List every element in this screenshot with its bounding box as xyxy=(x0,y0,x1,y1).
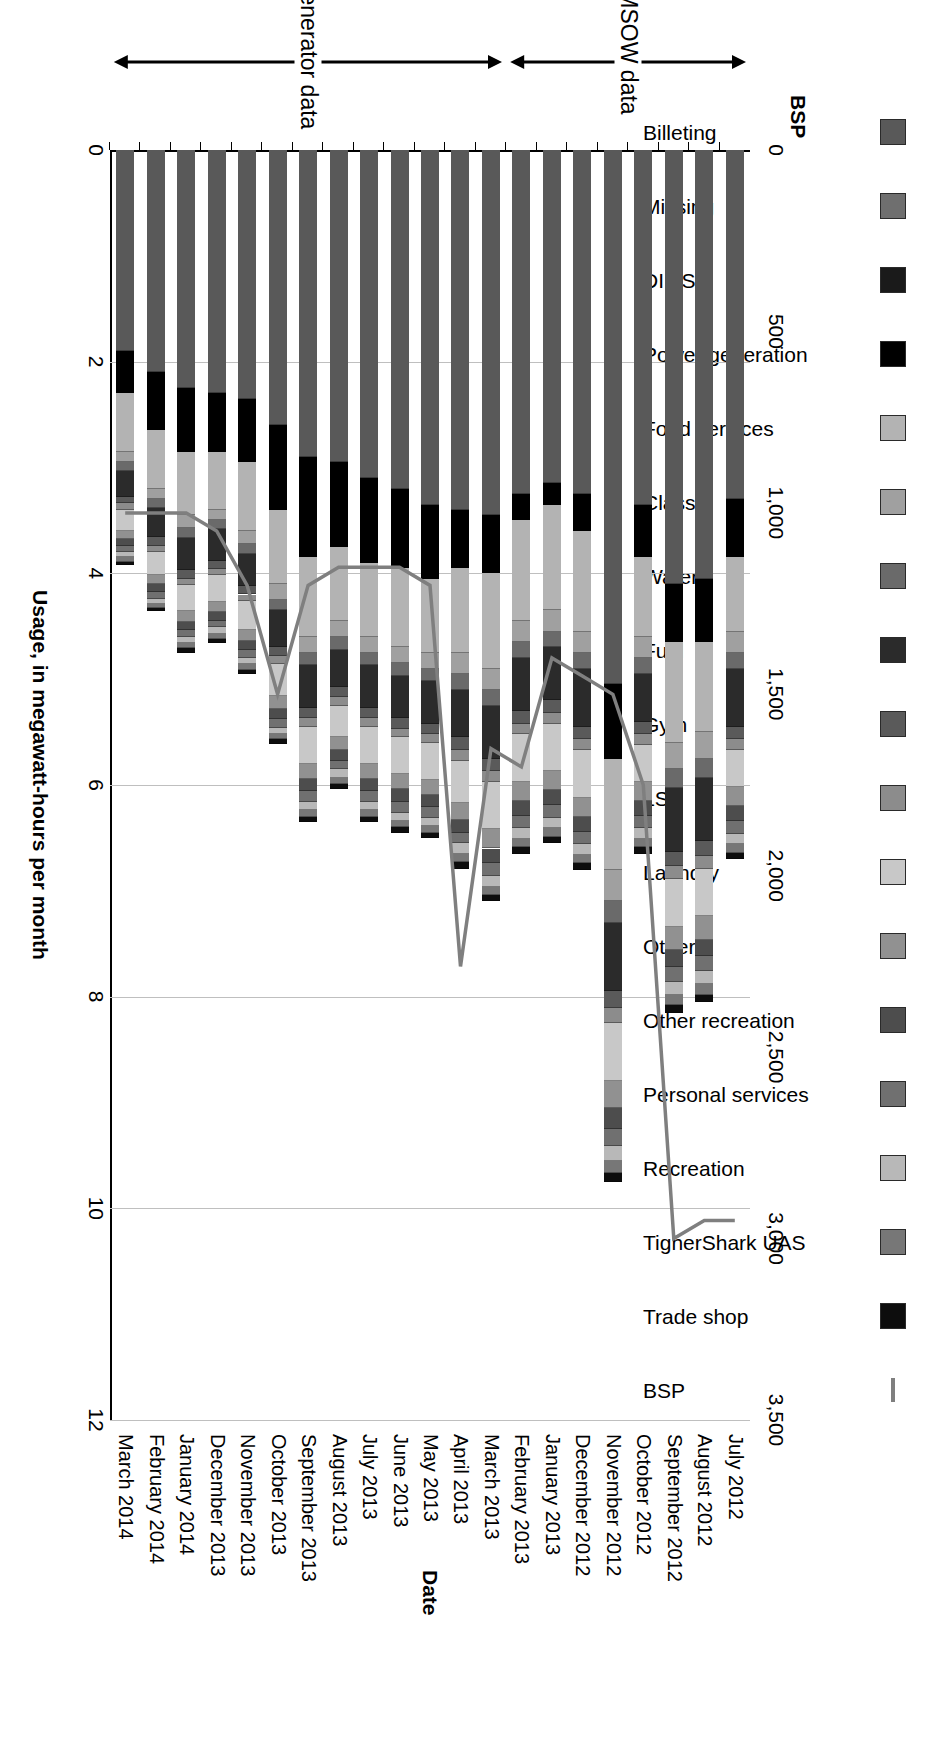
legend-swatch-icon xyxy=(880,1081,906,1107)
x-axis-tick-label: August 2013 xyxy=(328,1434,351,1546)
axis-tick-mark xyxy=(322,142,323,150)
x-axis-tick-label: October 2012 xyxy=(632,1434,655,1555)
x-axis-tick-label: January 2014 xyxy=(175,1434,198,1555)
legend-swatch-icon xyxy=(880,267,906,293)
gridline xyxy=(110,1420,750,1421)
axis-tick-mark xyxy=(536,142,537,150)
axis-tick-mark xyxy=(627,142,628,150)
x-axis-tick-label: February 2013 xyxy=(510,1434,533,1564)
axis-tick-mark xyxy=(292,142,293,150)
x-axis-tick-label: May 2013 xyxy=(419,1434,442,1522)
y-axis-tick-label: 6 xyxy=(84,745,108,825)
legend-swatch-icon xyxy=(880,1007,906,1033)
secondary-axis-title: BSP xyxy=(786,95,810,138)
legend-swatch-icon xyxy=(880,489,906,515)
axis-tick-mark xyxy=(383,142,384,150)
legend-swatch-icon xyxy=(880,563,906,589)
legend-item-label: Billeting xyxy=(643,122,873,143)
x-axis-title: Date xyxy=(418,1570,442,1616)
legend-line-icon xyxy=(880,1377,906,1403)
legend-swatch-icon xyxy=(880,193,906,219)
x-axis-tick-label: February 2014 xyxy=(145,1434,168,1564)
x-axis-tick-label: March 2013 xyxy=(480,1434,503,1540)
x-axis-tick-label: April 2013 xyxy=(449,1434,472,1524)
axis-tick-mark xyxy=(139,142,140,150)
axis-tick-mark xyxy=(597,142,598,150)
rotated-figure-wrapper: BilletingMissingDI LSAPower generationFo… xyxy=(0,0,928,1752)
x-axis-tick-label: September 2013 xyxy=(297,1434,320,1582)
x-axis-tick-label: December 2012 xyxy=(571,1434,594,1576)
y-axis-tick-label: 10 xyxy=(84,1168,108,1248)
axis-tick-mark xyxy=(688,142,689,150)
x-axis-tick-label: July 2012 xyxy=(724,1434,747,1520)
legend-swatch-icon xyxy=(880,711,906,737)
secondary-axis-tick-label: 2,500 xyxy=(764,1007,788,1107)
legend-swatch-icon xyxy=(880,859,906,885)
axis-tick-mark xyxy=(200,142,201,150)
legend-swatch-icon xyxy=(880,1229,906,1255)
legend-swatch-icon xyxy=(880,785,906,811)
legend-swatch-icon xyxy=(880,1155,906,1181)
legend-swatch-icon xyxy=(880,415,906,441)
plot-area: 02468101205001,0001,5002,0002,5003,0003,… xyxy=(110,150,750,1420)
secondary-axis-tick-label: 3,500 xyxy=(764,1370,788,1470)
legend-swatch-icon xyxy=(880,341,906,367)
secondary-axis-tick-label: 2,000 xyxy=(764,826,788,926)
y-axis-tick-label: 4 xyxy=(84,533,108,613)
x-axis-tick-label: June 2013 xyxy=(389,1434,412,1527)
legend-swatch-icon xyxy=(880,119,906,145)
annotation-label: Generator data xyxy=(295,0,322,135)
axis-tick-mark xyxy=(475,142,476,150)
legend-swatch-icon xyxy=(880,1303,906,1329)
secondary-axis-tick-label: 1,500 xyxy=(764,644,788,744)
x-axis-tick-label: August 2012 xyxy=(693,1434,716,1546)
legend-swatch-icon xyxy=(880,637,906,663)
y-axis-tick-label: 8 xyxy=(84,957,108,1037)
axis-tick-mark xyxy=(719,142,720,150)
x-axis-tick-label: November 2013 xyxy=(236,1434,259,1576)
axis-tick-mark xyxy=(658,142,659,150)
x-axis-tick-label: January 2013 xyxy=(541,1434,564,1555)
secondary-axis-tick-label: 500 xyxy=(764,281,788,381)
axis-tick-mark xyxy=(505,142,506,150)
y-axis-tick-label: 2 xyxy=(84,322,108,402)
axis-tick-mark xyxy=(109,142,110,150)
axis-tick-mark xyxy=(261,142,262,150)
axis-tick-mark xyxy=(566,142,567,150)
chart-legend: BilletingMissingDI LSAPower generationFo… xyxy=(778,0,928,1752)
bsp-line xyxy=(125,513,735,1239)
axis-tick-mark xyxy=(414,142,415,150)
x-axis-tick-label: December 2013 xyxy=(206,1434,229,1576)
axis-tick-mark xyxy=(353,142,354,150)
secondary-axis-tick-label: 1,000 xyxy=(764,463,788,563)
annotation-label: MSOW data xyxy=(615,0,642,121)
x-axis-tick-label: July 2013 xyxy=(358,1434,381,1520)
y-axis-tick-label: 0 xyxy=(84,110,108,190)
x-axis-tick-label: October 2013 xyxy=(267,1434,290,1555)
y-axis-tick-label: 12 xyxy=(84,1380,108,1460)
axis-tick-mark xyxy=(170,142,171,150)
x-axis-tick-label: March 2014 xyxy=(114,1434,137,1540)
x-axis-tick-label: September 2012 xyxy=(663,1434,686,1582)
legend-swatch-icon xyxy=(880,933,906,959)
secondary-axis-tick-label: 3,000 xyxy=(764,1189,788,1289)
axis-tick-mark xyxy=(444,142,445,150)
chart-figure: BilletingMissingDI LSAPower generationFo… xyxy=(0,0,928,1752)
bsp-line-series xyxy=(110,150,750,1420)
y-axis-title: Usage, in megawatt-hours per month xyxy=(28,590,52,960)
axis-tick-mark xyxy=(231,142,232,150)
x-axis-tick-label: November 2012 xyxy=(602,1434,625,1576)
secondary-axis-tick-label: 0 xyxy=(764,100,788,200)
